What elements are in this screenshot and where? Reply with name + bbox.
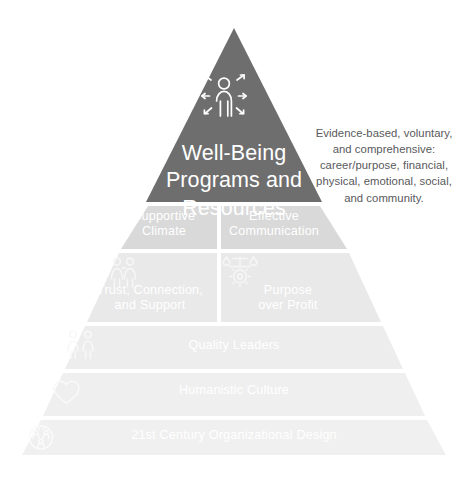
- pyramid-band-2-left-shape[interactable]: [121, 206, 217, 249]
- pyramid-band-3-right-shape[interactable]: [221, 253, 381, 322]
- pyramid-band-3-left-shape[interactable]: [87, 253, 217, 322]
- pyramid-band-4-shape[interactable]: [65, 326, 403, 369]
- pyramid-band-6-shape[interactable]: [22, 420, 446, 455]
- pyramid-apex-shape[interactable]: [146, 28, 322, 202]
- annotation-text: Evidence-based, voluntary, and comprehen…: [304, 125, 464, 206]
- pyramid-band-5-shape[interactable]: [43, 373, 425, 416]
- pyramid-shapes: [0, 0, 468, 477]
- pyramid-diagram: Well-Being Programs and Resources Suppor…: [0, 0, 468, 477]
- pyramid-band-2-right-shape[interactable]: [221, 206, 347, 249]
